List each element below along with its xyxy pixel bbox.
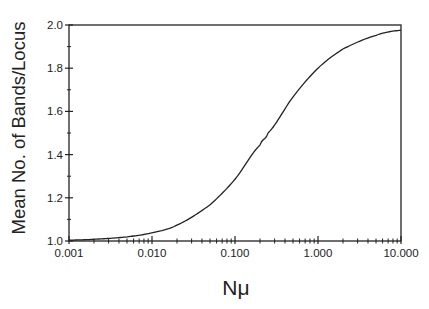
x-tick-label: 1.000	[304, 247, 333, 259]
y-tick-label: 2.0	[47, 19, 63, 31]
x-tick-label: 10.000	[383, 247, 418, 259]
y-tick-label: 1.8	[47, 62, 63, 74]
y-tick-label: 1.4	[47, 149, 64, 161]
x-axis-label: Nμ	[222, 276, 249, 299]
plot-border	[69, 25, 401, 241]
y-axis-tick-labels: 1.01.21.41.61.82.0	[47, 19, 64, 247]
x-tick-label: 0.100	[221, 247, 250, 259]
x-tick-label: 0.010	[138, 247, 167, 259]
x-tick-label: 0.001	[55, 247, 84, 259]
y-tick-label: 1.2	[47, 192, 63, 204]
y-tick-label: 1.0	[47, 235, 63, 247]
data-series-line	[69, 30, 401, 240]
plot-frame	[69, 25, 401, 241]
x-axis-tick-labels: 0.0010.0100.1001.00010.000	[55, 247, 419, 259]
y-tick-label: 1.6	[47, 105, 63, 117]
y-axis-label: Mean No. of Bands/Locus	[8, 22, 29, 235]
chart: 1.01.21.41.61.82.0 0.0010.0100.1001.0001…	[0, 0, 429, 309]
